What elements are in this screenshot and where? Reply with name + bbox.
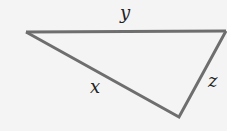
sides-x-z-lines xyxy=(26,31,226,117)
side-label-x: x xyxy=(90,78,100,96)
side-label-z: z xyxy=(208,72,217,90)
triangle-shape xyxy=(0,0,227,131)
side-label-y: y xyxy=(120,4,130,22)
side-y-line xyxy=(26,31,226,32)
triangle-diagram: y x z xyxy=(0,0,227,131)
